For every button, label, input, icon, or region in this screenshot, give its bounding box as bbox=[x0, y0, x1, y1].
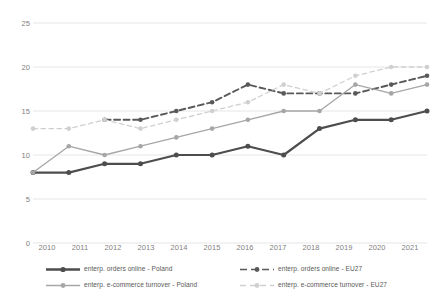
chart-legend: enterp. orders online - Poland enterp. o… bbox=[0, 262, 435, 300]
x-axis-tick: 2021 bbox=[392, 243, 428, 252]
legend-label: enterp. orders online - EU27 bbox=[278, 266, 362, 273]
legend-item-ecommerce-turnover-eu27[interactable]: enterp. e-commerce turnover - EU27 bbox=[240, 281, 387, 290]
x-axis-tick: 2015 bbox=[194, 243, 230, 252]
x-axis-tick: 2011 bbox=[62, 243, 98, 252]
legend-swatch-solid-light bbox=[46, 281, 80, 290]
x-axis-tick: 2010 bbox=[29, 243, 65, 252]
legend-label: enterp. e-commerce turnover - Poland bbox=[84, 282, 197, 289]
legend-item-orders-online-eu27[interactable]: enterp. orders online - EU27 bbox=[240, 265, 362, 274]
legend-label: enterp. orders online - Poland bbox=[84, 266, 172, 273]
x-axis-tick: 2019 bbox=[326, 243, 362, 252]
x-axis-tick: 2014 bbox=[161, 243, 197, 252]
line-chart: 25 20 15 10 5 0 2010 2011 2012 2013 2014… bbox=[0, 0, 435, 301]
legend-label: enterp. e-commerce turnover - EU27 bbox=[278, 282, 387, 289]
legend-swatch-dashed-dark bbox=[240, 265, 274, 274]
legend-swatch-solid-dark bbox=[46, 265, 80, 274]
x-axis-tick: 2018 bbox=[293, 243, 329, 252]
legend-item-orders-online-poland[interactable]: enterp. orders online - Poland bbox=[46, 265, 172, 274]
legend-swatch-dashed-light bbox=[240, 281, 274, 290]
x-axis-tick: 2020 bbox=[359, 243, 395, 252]
legend-item-ecommerce-turnover-poland[interactable]: enterp. e-commerce turnover - Poland bbox=[46, 281, 197, 290]
x-axis-tick: 2013 bbox=[128, 243, 164, 252]
x-axis-tick: 2012 bbox=[95, 243, 131, 252]
x-axis-tick: 2016 bbox=[227, 243, 263, 252]
plot-area bbox=[0, 0, 435, 301]
series-canvas bbox=[0, 0, 435, 301]
x-axis-tick: 2017 bbox=[260, 243, 296, 252]
